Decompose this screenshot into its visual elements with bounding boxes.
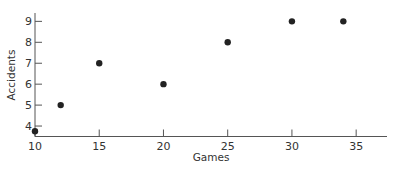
y-tick-label: 6 [25,78,32,91]
y-tick-label: 8 [25,36,32,49]
data-point [340,18,346,24]
x-tick-label: 10 [28,140,42,153]
axes [35,13,387,137]
x-tick-label: 30 [285,140,299,153]
ticks: 101520253035456789 [25,15,363,152]
data-point [225,39,231,45]
data-point [160,81,166,87]
y-tick-label: 5 [25,99,32,112]
data-point [289,18,295,24]
x-tick-label: 15 [92,140,106,153]
data-point [32,128,38,134]
data-points [32,18,347,134]
data-point [96,60,102,66]
x-tick-label: 20 [156,140,170,153]
x-tick-label: 35 [349,140,363,153]
x-axis-title: Games [193,151,230,163]
y-tick-label: 7 [25,57,32,70]
scatter-chart: 101520253035456789 Games Accidents [0,0,393,170]
y-axis-title: Accidents [5,50,17,101]
data-point [57,102,63,108]
y-tick-label: 4 [25,120,32,133]
y-tick-label: 9 [25,15,32,28]
